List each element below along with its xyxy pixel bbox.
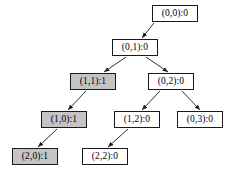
tree-edge (142, 23, 154, 38)
tree-node-label: (1,2):0 (124, 115, 150, 125)
tree-node-label: (0,1):0 (122, 43, 148, 53)
tree-edge (38, 129, 57, 147)
tree-node-label: (1,0):1 (51, 115, 77, 125)
tree-node-label: (2,0):1 (22, 152, 48, 162)
tree-node-n10: (1,0):1 (41, 111, 87, 128)
tree-node-label: (1,1):1 (80, 77, 106, 87)
tree-edge (104, 57, 126, 72)
tree-edge (142, 91, 160, 110)
tree-node-n12: (1,2):0 (114, 111, 160, 128)
tree-node-n22: (2,2):0 (82, 148, 128, 165)
tree-node-n03: (0,3):0 (177, 111, 223, 128)
tree-node-label: (2,2):0 (92, 152, 118, 162)
tree-node-n20: (2,0):1 (12, 148, 58, 165)
tree-node-label: (0,3):0 (187, 115, 213, 125)
tree-edge (108, 129, 128, 147)
tree-edge (68, 91, 86, 110)
tree-diagram: (0,0):0(0,1):0(1,1):1(0,2):0(1,0):1(1,2)… (0, 0, 236, 177)
tree-node-n02: (0,2):0 (148, 73, 194, 90)
tree-edge (182, 91, 200, 110)
tree-node-label: (0,0):0 (162, 9, 188, 18)
tree-edge (146, 57, 168, 72)
tree-node-n01: (0,1):0 (112, 39, 158, 56)
tree-node-n11: (1,1):1 (70, 73, 116, 90)
tree-node-label: (0,2):0 (158, 77, 184, 87)
tree-node-n00: (0,0):0 (152, 5, 198, 22)
